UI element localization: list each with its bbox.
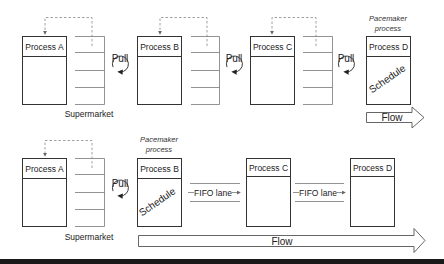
top-process-a: Process A bbox=[23, 37, 67, 105]
pull-indicator-3: Pull bbox=[337, 53, 356, 73]
bottom-process-a: Process A bbox=[23, 159, 67, 227]
process-label: Process A bbox=[25, 164, 64, 174]
top-process-d: Process D Schedule bbox=[367, 37, 411, 105]
process-label: Process C bbox=[253, 42, 292, 52]
pull-indicator-2: Pull bbox=[225, 53, 244, 73]
process-label: Process B bbox=[140, 42, 179, 52]
bottom-process-d: Process D bbox=[351, 159, 395, 227]
flow-label: Flow bbox=[381, 112, 403, 123]
top-row: Process A Supermarket Pull Process B bbox=[23, 14, 425, 128]
pacemaker-caption: process bbox=[145, 145, 173, 154]
supermarket-label: Supermarket bbox=[65, 232, 114, 242]
bottom-border-band bbox=[0, 259, 444, 264]
pacemaker-caption: process bbox=[374, 24, 402, 33]
bottom-process-b: Process B Schedule bbox=[137, 159, 182, 227]
bottom-flow-arrow: Flow bbox=[139, 229, 426, 253]
flow-label: Flow bbox=[271, 236, 293, 247]
process-label: Process B bbox=[140, 164, 179, 174]
process-label: Process A bbox=[25, 42, 64, 52]
fifo-lane-2: FIFO lane bbox=[293, 184, 345, 202]
process-label: Process D bbox=[369, 42, 408, 52]
process-label: Process D bbox=[353, 163, 392, 173]
bottom-row: Process A Supermarket Pull Pacemaker pro… bbox=[23, 135, 426, 253]
pacemaker-caption: Pacemaker bbox=[140, 135, 178, 144]
top-process-c: Process C bbox=[251, 37, 295, 105]
supermarket-label: Supermarket bbox=[65, 109, 114, 119]
fifo-lane-label: FIFO lane bbox=[194, 188, 232, 198]
pull-indicator-bottom: Pull bbox=[111, 178, 130, 197]
value-stream-diagram: Process A Supermarket Pull Process B bbox=[0, 0, 444, 264]
fifo-lane-label: FIFO lane bbox=[299, 188, 337, 198]
top-process-b: Process B bbox=[138, 37, 182, 105]
bottom-process-c: Process C bbox=[247, 159, 291, 227]
process-label: Process C bbox=[249, 163, 288, 173]
fifo-lane-1: FIFO lane bbox=[188, 184, 240, 202]
pacemaker-caption: Pacemaker bbox=[369, 14, 407, 23]
top-flow-arrow: Flow bbox=[367, 107, 425, 128]
pull-indicator-1: Pull bbox=[111, 53, 130, 73]
